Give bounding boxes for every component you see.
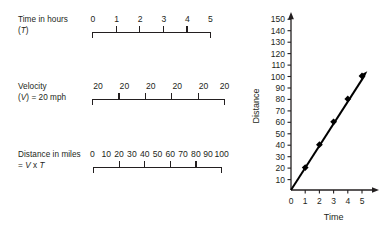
tick-label: 60 bbox=[166, 149, 176, 159]
x-axis-title: Time bbox=[324, 212, 344, 222]
y-tick-label: 50 bbox=[276, 129, 286, 139]
numberline-time-label-line2: (T) bbox=[18, 25, 98, 36]
x-tick-label: 2 bbox=[317, 196, 322, 206]
tick-label: 20 bbox=[199, 81, 209, 91]
y-tick-label: 30 bbox=[276, 152, 286, 162]
tick-label: 20 bbox=[146, 81, 156, 91]
y-axis bbox=[288, 12, 294, 190]
x-tick-label: 3 bbox=[331, 196, 336, 206]
tick-label: 30 bbox=[127, 149, 137, 159]
x-axis bbox=[291, 187, 379, 193]
tick-label: 5 bbox=[208, 14, 213, 24]
axis-line bbox=[92, 99, 225, 100]
y-tick-label: 40 bbox=[276, 140, 286, 150]
tick-mark bbox=[221, 167, 222, 173]
tick-label: 0 bbox=[91, 14, 96, 24]
numberline-velocity-label-line1: Velocity bbox=[18, 82, 47, 91]
y-tick-label: 70 bbox=[276, 106, 286, 116]
tick-label: 80 bbox=[191, 149, 201, 159]
numberline-velocity-label: Velocity (V) = 20 mph bbox=[18, 81, 98, 104]
x-tick-label: 4 bbox=[345, 196, 350, 206]
x-tick-label: 0 bbox=[289, 196, 294, 206]
tick-mark bbox=[186, 26, 187, 33]
y-tick-label: 120 bbox=[271, 49, 285, 59]
tick-mark bbox=[170, 161, 171, 168]
tick-label: 20 bbox=[93, 81, 103, 91]
tick-label: 100 bbox=[215, 149, 229, 159]
numberline-time-label: Time in hours (T) bbox=[18, 14, 98, 37]
x-tick-label: 1 bbox=[303, 196, 308, 206]
y-tick-label: 80 bbox=[276, 94, 286, 104]
y-tick-label: 20 bbox=[276, 163, 286, 173]
tick-mark bbox=[144, 161, 145, 168]
tick-mark bbox=[163, 26, 164, 33]
tick-mark bbox=[118, 93, 119, 100]
tick-label: 2 bbox=[138, 14, 143, 24]
tick-label: 40 bbox=[140, 149, 150, 159]
tick-mark bbox=[198, 93, 199, 100]
data-series-line bbox=[291, 71, 367, 190]
x-tick-label: 5 bbox=[360, 196, 365, 206]
numberline-distance: Distance in miles = V x T 0 10 20 30 40 … bbox=[0, 149, 232, 201]
numberline-time: Time in hours (T) 0 1 2 3 4 5 bbox=[0, 14, 232, 66]
axis-line bbox=[93, 167, 222, 168]
y-tick-label: 130 bbox=[271, 37, 285, 47]
tick-mark bbox=[92, 32, 93, 38]
y-tick-label: 100 bbox=[271, 72, 285, 82]
x-tick-labels: 0 1 2 3 4 5 bbox=[289, 196, 365, 206]
tick-mark bbox=[171, 93, 172, 100]
numberline-distance-scale: 0 10 20 30 40 50 60 70 80 90 100 bbox=[93, 149, 222, 183]
tick-label: 3 bbox=[161, 14, 166, 24]
tick-label: 20 bbox=[220, 81, 230, 91]
tick-label: 20 bbox=[120, 81, 130, 91]
numberline-time-scale: 0 1 2 3 4 5 bbox=[92, 14, 211, 48]
tick-label: 10 bbox=[102, 149, 112, 159]
tick-mark bbox=[119, 161, 120, 168]
axis-line bbox=[92, 32, 211, 33]
tick-label: 4 bbox=[185, 14, 190, 24]
tick-mark bbox=[93, 167, 94, 173]
tick-mark bbox=[139, 26, 140, 33]
tick-mark bbox=[210, 32, 211, 38]
tick-label: 50 bbox=[153, 149, 163, 159]
numberline-time-label-line1: Time in hours bbox=[18, 15, 68, 24]
y-tick-label: 150 bbox=[271, 14, 285, 24]
y-tick-label: 60 bbox=[276, 117, 286, 127]
y-tick-label: 10 bbox=[276, 175, 286, 185]
numberline-velocity-scale: 20 20 20 20 20 20 bbox=[92, 81, 225, 115]
diagram-canvas: Time in hours (T) 0 1 2 3 4 5 Velocity (… bbox=[0, 0, 381, 240]
tick-label: 70 bbox=[178, 149, 188, 159]
tick-mark bbox=[145, 93, 146, 100]
tick-mark bbox=[92, 99, 93, 105]
tick-label: 1 bbox=[114, 14, 119, 24]
y-tick-label: 110 bbox=[271, 60, 285, 70]
tick-label: 20 bbox=[114, 149, 124, 159]
numberline-distance-label-line1: Distance in miles bbox=[18, 150, 81, 159]
tick-label: 90 bbox=[203, 149, 213, 159]
numberline-velocity: Velocity (V) = 20 mph 20 20 20 20 20 20 bbox=[0, 81, 232, 133]
tick-mark bbox=[224, 99, 225, 105]
y-tick-label: 140 bbox=[271, 26, 285, 36]
y-tick-label: 90 bbox=[276, 83, 286, 93]
tick-mark bbox=[195, 161, 196, 168]
distance-time-line-graph: 10 20 30 40 50 60 70 80 90 100 110 120 1… bbox=[248, 6, 381, 236]
tick-mark bbox=[116, 26, 117, 33]
y-tick-labels: 10 20 30 40 50 60 70 80 90 100 110 120 1… bbox=[271, 14, 285, 184]
y-axis-title: Distance bbox=[251, 88, 261, 123]
tick-label: 20 bbox=[172, 81, 182, 91]
numberline-velocity-label-line2: (V) = 20 mph bbox=[18, 92, 98, 103]
tick-label: 0 bbox=[90, 149, 95, 159]
